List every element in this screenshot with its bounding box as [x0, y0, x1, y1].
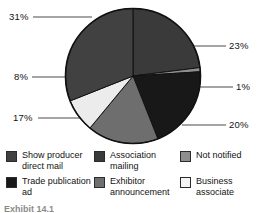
figure-caption: Exhibit 14.1	[4, 204, 54, 213]
pie-chart-figure: 31% 23% 1% 20% 17% 8% Show producer dire…	[0, 0, 264, 213]
legend-label: Trade publication ad	[22, 176, 92, 197]
slice-percent-label: 23%	[229, 41, 249, 51]
legend-swatch-not-notified	[180, 151, 191, 162]
pie-plot-area: 31% 23% 1% 20% 17% 8%	[0, 0, 264, 146]
legend-swatch-business-associate	[180, 177, 191, 188]
slice-percent-label: 8%	[14, 72, 28, 82]
legend-item-association-mailing[interactable]: Association mailing	[94, 150, 180, 173]
legend-item-not-notified[interactable]: Not notified	[180, 150, 258, 173]
legend-swatch-show-producer-direct-mail	[6, 151, 17, 162]
chart-legend: Show producer direct mail Association ma…	[6, 150, 264, 202]
legend-item-show-producer-direct-mail[interactable]: Show producer direct mail	[6, 150, 94, 173]
legend-label: Show producer direct mail	[22, 150, 92, 171]
legend-label: Business associate	[196, 176, 258, 197]
pie-slice[interactable]	[133, 9, 200, 77]
legend-label: Not notified	[196, 150, 242, 161]
legend-swatch-association-mailing	[94, 151, 105, 162]
legend-item-business-associate[interactable]: Business associate	[180, 176, 258, 199]
slice-percent-label: 31%	[9, 12, 29, 22]
legend-swatch-trade-publication-ad	[6, 177, 17, 188]
legend-item-exhibitor-announcement[interactable]: Exhibitor announcement	[94, 176, 180, 199]
legend-label: Exhibitor announcement	[110, 176, 180, 197]
pie-svg	[0, 0, 264, 146]
slice-percent-label: 17%	[13, 113, 33, 123]
legend-swatch-exhibitor-announcement	[94, 177, 105, 188]
slice-percent-label: 20%	[229, 120, 249, 130]
legend-label: Association mailing	[110, 150, 180, 171]
slice-percent-label: 1%	[236, 82, 250, 92]
legend-item-trade-publication-ad[interactable]: Trade publication ad	[6, 176, 94, 199]
